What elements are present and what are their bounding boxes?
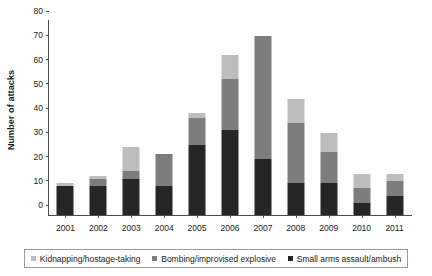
y-axis-tick-mark [46,180,49,181]
y-axis-tick: 70 [34,30,49,40]
x-axis-tick-label: 2001 [56,223,75,233]
bar-segment [386,174,403,181]
bar-segment [287,183,304,215]
x-axis-tick-label: 2010 [352,223,371,233]
bar-segment [189,118,206,145]
bar-segment [222,79,239,130]
legend-swatch-icon [288,256,293,261]
x-axis-tick-label: 2007 [253,223,272,233]
bar-segment [189,113,206,118]
bar-2002 [90,176,107,215]
legend-swatch-icon [31,256,36,261]
y-axis-tick: 40 [34,103,49,113]
x-axis-tick-label: 2002 [89,223,108,233]
bar-segment [189,145,206,215]
x-axis-tick-mark [263,215,264,218]
bar-segment [90,176,107,178]
legend-item: Kidnapping/hostage-taking [31,254,141,264]
bar-segment [353,203,370,215]
x-axis-tick-mark [98,215,99,218]
x-axis-tick-mark [395,215,396,218]
x-axis-tick-mark [362,215,363,218]
legend-label: Small arms assault/ambush [297,254,401,264]
bar-segment [90,179,107,186]
bar-segment [123,171,140,178]
y-axis-tick: 30 [34,127,49,137]
bar-segment [353,174,370,189]
y-axis-title-text: Number of attacks [6,70,16,150]
bar-segment [254,159,271,215]
legend-item: Small arms assault/ambush [288,254,401,264]
bar-segment [254,36,271,160]
x-axis-tick-label: 2005 [188,223,207,233]
y-axis-tick-label: 10 [34,176,46,186]
y-axis-tick-mark [46,156,49,157]
bar-2006 [222,55,239,215]
bar-segment [57,183,74,185]
bar-segment [123,179,140,215]
chart-figure: Number of attacks 01020304050607080 Kidn… [0,0,432,276]
x-axis-tick-mark [65,215,66,218]
bar-segment [123,147,140,171]
y-axis-tick: 10 [34,176,49,186]
y-axis-tick-label: 80 [34,6,46,16]
y-axis-tick-mark [46,108,49,109]
x-axis-tick-label: 2008 [286,223,305,233]
legend-label: Kidnapping/hostage-taking [40,254,141,264]
y-axis-tick: 50 [34,79,49,89]
x-axis-tick-mark [296,215,297,218]
bar-segment [320,152,337,184]
chart-legend: Kidnapping/hostage-takingBombing/improvi… [24,249,408,268]
bar-2008 [287,99,304,215]
y-axis-tick-label: 20 [34,152,46,162]
y-axis-tick: 60 [34,55,49,65]
x-axis-tick-mark [230,215,231,218]
y-axis-tick-label: 0 [38,200,46,210]
bar-2010 [353,174,370,215]
bar-2005 [189,113,206,215]
x-axis-tick-mark [164,215,165,218]
y-axis-title: Number of attacks [0,0,22,220]
bar-segment [90,186,107,215]
plot-area: 01020304050607080 [49,21,411,215]
y-axis-tick-label: 50 [34,79,46,89]
bar-segment [57,186,74,215]
x-axis-tick-mark [197,215,198,218]
y-axis-tick: 20 [34,152,49,162]
bar-segment [320,133,337,152]
bar-segment [222,130,239,215]
y-axis-tick: 0 [38,200,49,210]
x-axis-tick-label: 2009 [319,223,338,233]
bar-segment [353,188,370,203]
bar-2009 [320,133,337,215]
bar-segment [287,99,304,123]
bar-segment [156,186,173,215]
bar-segment [287,123,304,184]
legend-swatch-icon [152,256,157,261]
y-axis-tick-label: 60 [34,55,46,65]
bar-2003 [123,147,140,215]
y-axis-tick-label: 30 [34,127,46,137]
bar-segment [222,55,239,79]
y-axis-tick-label: 40 [34,103,46,113]
bar-segment [386,196,403,215]
bar-2004 [156,154,173,215]
x-axis-tick-label: 2011 [385,223,403,233]
x-axis-tick-mark [131,215,132,218]
bar-segment [320,183,337,215]
y-axis-tick-mark [46,11,49,12]
y-axis-tick-label: 70 [34,30,46,40]
x-axis-tick-mark [329,215,330,218]
y-axis-tick: 80 [34,6,49,16]
x-axis-tick-label: 2006 [221,223,240,233]
x-axis-tick-label: 2003 [122,223,141,233]
legend-label: Bombing/improvised explosive [161,254,276,264]
bar-segment [386,181,403,196]
bar-2011 [386,174,403,215]
y-axis-tick-mark [46,132,49,133]
y-axis-tick-mark [46,205,49,206]
legend-item: Bombing/improvised explosive [152,254,276,264]
bar-2007 [254,36,271,215]
x-axis-tick-label: 2004 [155,223,174,233]
y-axis-tick-mark [46,35,49,36]
